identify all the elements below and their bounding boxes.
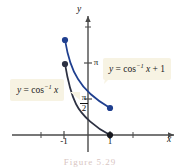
callout-label-arccos-shifted: y = cos−1 x + 1	[103, 58, 171, 80]
x-tick-label-neg1: -1	[57, 136, 71, 146]
callout-label-arccos: y = cos−1 x	[10, 79, 64, 101]
x-tick-label-pos1: 1	[104, 136, 116, 146]
y-tick-label-pi: π	[91, 57, 101, 67]
left-label-function: cos	[31, 85, 44, 95]
y-tick-label-pi-over-2: π 2	[77, 93, 91, 113]
pi-over-2-denominator: 2	[77, 104, 91, 113]
endpoint-dot-shifted-right	[107, 105, 113, 111]
endpoint-dot-arccos-left	[62, 61, 68, 67]
y-axis-label: y	[77, 4, 81, 14]
endpoint-dot-shifted-left	[62, 37, 68, 43]
left-label-exponent: −1	[44, 83, 52, 90]
right-label-exponent: −1	[136, 62, 144, 69]
y-axis-arrowhead	[85, 16, 90, 22]
figure-caption-trace: Figure 5.29	[0, 158, 180, 167]
left-label-argument: x	[54, 85, 58, 95]
pi-over-2-numerator: π	[77, 93, 91, 102]
inverse-cosine-graph-figure: y x -1 1 π π 2 y = cos−1 x y = cos−1 x +…	[0, 0, 180, 167]
right-label-function: cos	[123, 64, 136, 74]
right-label-plus-one: + 1	[153, 64, 165, 74]
x-axis-label: x	[167, 134, 171, 144]
